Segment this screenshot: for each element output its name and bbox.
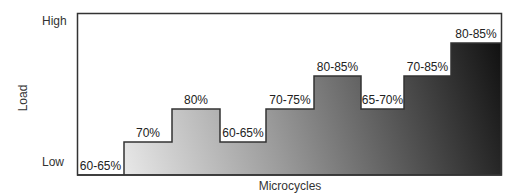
step-label: 70-85%	[407, 60, 449, 74]
step-label: 65-70%	[362, 93, 404, 107]
step-label: 60-65%	[222, 126, 264, 140]
y-tick-low: Low	[42, 155, 64, 169]
step-label: 70%	[136, 126, 160, 140]
load-microcycle-chart: 60-65%70%80%60-65%70-75%80-85%65-70%70-8…	[0, 0, 522, 196]
y-tick-high: High	[42, 14, 67, 28]
y-axis-label: Load	[16, 85, 30, 112]
step-label: 60-65%	[80, 159, 122, 173]
step-label: 80%	[184, 93, 208, 107]
step-label: 80-85%	[317, 60, 359, 74]
x-axis-label: Microcycles	[259, 179, 322, 193]
step-label: 70-75%	[269, 93, 311, 107]
step-label: 80-85%	[455, 27, 497, 41]
